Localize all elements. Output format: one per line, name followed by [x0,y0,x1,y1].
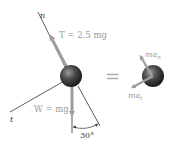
angle-label: 30° [80,131,94,140]
equals-sign: = [105,65,120,86]
inclined-reference-line [78,86,100,126]
angle-arc [73,124,98,128]
tension-arrow [51,37,67,68]
particle-ball-left [60,65,82,87]
weight-label: W = mg [34,104,69,114]
n-axis-label: n [40,11,45,20]
free-body-diagram: n T = 2.5 mg t 30° W = mg = man mat [0,0,181,150]
t-axis-label: t [10,115,14,124]
angle-arrow-left [73,126,76,129]
tension-label: T = 2.5 mg [59,30,107,40]
tangential-acceleration-label: mat [128,91,143,101]
normal-acceleration-label: man [145,50,161,60]
